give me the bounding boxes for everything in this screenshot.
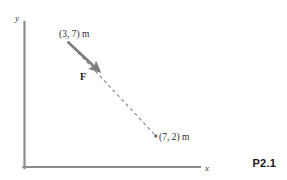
force-label: F [80, 71, 86, 82]
figure-caption: P2.1 [253, 158, 276, 169]
figure-drawing: y x (3, 7) m F (7, 2) m [0, 0, 287, 180]
end-point-marker [154, 135, 157, 138]
end-point-label: (7, 2) m [159, 132, 190, 143]
y-axis-label: y [14, 13, 19, 23]
x-axis-label: x [204, 163, 209, 173]
force-vector-arrow [70, 44, 99, 71]
figure-container: y x (3, 7) m F (7, 2) m P2.1 [0, 0, 287, 180]
start-point-label: (3, 7) m [59, 29, 90, 40]
